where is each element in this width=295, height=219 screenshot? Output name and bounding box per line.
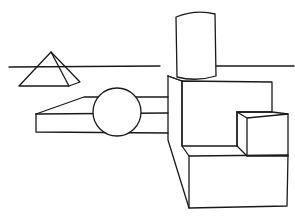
drawing-svg [0, 0, 295, 219]
horizon-line [9, 66, 294, 67]
small-cube [237, 112, 288, 156]
pyramid [19, 52, 80, 86]
geometric-solids-drawing [0, 0, 295, 219]
cylinder [176, 12, 216, 79]
sphere [93, 88, 141, 136]
lower-step-block [189, 155, 288, 208]
